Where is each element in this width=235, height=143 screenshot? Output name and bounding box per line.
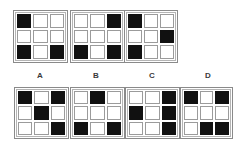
cell-r2-c1 xyxy=(128,30,142,44)
cell-r1-c3 xyxy=(160,14,174,28)
sequence-panel-1-grid xyxy=(15,12,66,61)
cell-r2-c3 xyxy=(107,30,121,44)
sequence-panel-2 xyxy=(70,10,125,63)
cell-r3-c3 xyxy=(51,122,65,135)
option-c-grid xyxy=(127,89,178,137)
cell-r3-c2 xyxy=(33,45,47,59)
cell-r1-c2 xyxy=(144,14,158,28)
cell-r3-c1 xyxy=(129,122,143,135)
cell-r3-c1 xyxy=(74,122,88,135)
cell-r2-c1 xyxy=(74,30,88,44)
cell-r1-c1 xyxy=(74,91,88,104)
cell-r1-c3 xyxy=(51,91,65,104)
cell-r3-c1 xyxy=(17,45,31,59)
cell-r1-c2 xyxy=(90,91,104,104)
sequence-panel-3-grid xyxy=(126,12,176,61)
cell-r2-c2 xyxy=(90,30,104,44)
cell-r1-c2 xyxy=(200,91,214,104)
cell-r2-c2 xyxy=(34,106,48,119)
cell-r1-c1 xyxy=(17,14,31,28)
cell-r2-c2 xyxy=(90,106,104,119)
cell-r2-c2 xyxy=(144,30,158,44)
cell-r3-c1 xyxy=(128,45,142,59)
cell-r1-c3 xyxy=(107,91,121,104)
cell-r3-c2 xyxy=(200,122,214,135)
option-a[interactable] xyxy=(14,87,69,139)
cell-r1-c1 xyxy=(128,14,142,28)
cell-r3-c1 xyxy=(74,45,88,59)
cell-r2-c1 xyxy=(74,106,88,119)
option-d-grid xyxy=(182,89,231,137)
sequence-panel-3 xyxy=(124,10,178,63)
option-label-b: B xyxy=(89,71,103,81)
cell-r2-c3 xyxy=(215,106,229,119)
cell-r2-c1 xyxy=(18,106,32,119)
sequence-panel-1 xyxy=(13,10,68,63)
cell-r1-c3 xyxy=(162,91,176,104)
cell-r1-c1 xyxy=(184,91,198,104)
cell-r2-c3 xyxy=(107,106,121,119)
option-label-c: C xyxy=(145,71,159,81)
cell-r2-c3 xyxy=(50,30,64,44)
cell-r2-c3 xyxy=(51,106,65,119)
sequence-panel-2-grid xyxy=(72,12,123,61)
cell-r3-c2 xyxy=(90,45,104,59)
cell-r3-c2 xyxy=(34,122,48,135)
option-d[interactable] xyxy=(180,87,233,139)
cell-r3-c3 xyxy=(107,122,121,135)
cell-r1-c2 xyxy=(33,14,47,28)
cell-r3-c3 xyxy=(50,45,64,59)
cell-r1-c3 xyxy=(215,91,229,104)
option-b-grid xyxy=(72,89,123,137)
puzzle-root: A B C D xyxy=(0,0,235,143)
cell-r3-c3 xyxy=(162,122,176,135)
cell-r3-c2 xyxy=(144,45,158,59)
cell-r1-c3 xyxy=(107,14,121,28)
cell-r2-c3 xyxy=(162,106,176,119)
cell-r2-c1 xyxy=(17,30,31,44)
cell-r2-c2 xyxy=(145,106,159,119)
cell-r3-c3 xyxy=(160,45,174,59)
option-label-a: A xyxy=(33,71,47,81)
cell-r2-c2 xyxy=(200,106,214,119)
cell-r3-c3 xyxy=(107,45,121,59)
cell-r3-c1 xyxy=(184,122,198,135)
cell-r1-c1 xyxy=(18,91,32,104)
cell-r2-c3 xyxy=(160,30,174,44)
cell-r1-c1 xyxy=(129,91,143,104)
option-b[interactable] xyxy=(70,87,125,139)
cell-r2-c1 xyxy=(129,106,143,119)
cell-r3-c2 xyxy=(145,122,159,135)
cell-r3-c3 xyxy=(215,122,229,135)
cell-r2-c2 xyxy=(33,30,47,44)
cell-r1-c3 xyxy=(50,14,64,28)
option-a-grid xyxy=(16,89,67,137)
cell-r3-c2 xyxy=(90,122,104,135)
option-label-d: D xyxy=(201,71,215,81)
cell-r3-c1 xyxy=(18,122,32,135)
cell-r1-c2 xyxy=(90,14,104,28)
cell-r1-c1 xyxy=(74,14,88,28)
cell-r1-c2 xyxy=(34,91,48,104)
cell-r1-c2 xyxy=(145,91,159,104)
option-c[interactable] xyxy=(125,87,180,139)
cell-r2-c1 xyxy=(184,106,198,119)
